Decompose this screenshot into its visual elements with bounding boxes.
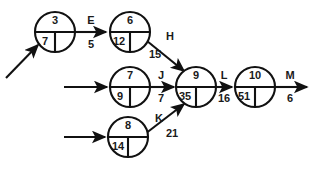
node-1-bottom-left-value: 7 <box>42 35 48 47</box>
node-3[interactable]: 7 9 <box>110 67 150 107</box>
edge-start-to-node-1 <box>6 45 38 78</box>
edge-J-label: J <box>158 69 164 81</box>
node-4[interactable]: 9 35 <box>176 67 216 107</box>
edge-E: E 5 <box>75 14 106 50</box>
edge-M-label: M <box>285 69 294 81</box>
node-1-top-value: 3 <box>52 14 58 26</box>
node-2-bottom-left-value: 12 <box>113 35 125 47</box>
node-5-bottom-left-value: 51 <box>238 90 250 102</box>
node-6-top-value: 8 <box>125 119 131 131</box>
node-5[interactable]: 10 51 <box>235 67 275 107</box>
node-4-bottom-left-value: 35 <box>179 90 191 102</box>
edge-J: J 7 <box>150 69 174 104</box>
network-diagram-svg: E 5 H 15 J 7 K 21 <box>0 0 317 177</box>
node-1[interactable]: 3 7 <box>35 12 75 52</box>
network-diagram-canvas: E 5 H 15 J 7 K 21 <box>0 0 317 177</box>
edge-H: H 15 <box>147 30 184 71</box>
node-3-bottom-left-value: 9 <box>117 90 123 102</box>
edge-K-line <box>145 104 184 134</box>
edge-J-duration: 7 <box>158 92 164 104</box>
node-6[interactable]: 8 14 <box>108 117 148 157</box>
node-2-top-value: 6 <box>127 14 133 26</box>
edge-K-duration: 21 <box>166 127 178 139</box>
edge-M: M 6 <box>275 69 307 104</box>
edge-H-label: H <box>166 30 174 42</box>
edge-L: L 16 <box>216 69 232 104</box>
node-3-top-value: 7 <box>127 69 133 81</box>
edge-start-to-node-1-line <box>6 45 38 78</box>
node-4-top-value: 9 <box>193 69 199 81</box>
edge-L-label: L <box>221 69 228 81</box>
edge-K: K 21 <box>145 104 184 139</box>
edge-E-duration: 5 <box>88 38 94 50</box>
edge-K-label: K <box>155 112 163 124</box>
edge-M-duration: 6 <box>287 92 293 104</box>
edge-E-label: E <box>87 14 94 26</box>
edge-L-duration: 16 <box>218 92 230 104</box>
node-5-top-value: 10 <box>249 69 261 81</box>
node-6-bottom-left-value: 14 <box>112 140 125 152</box>
node-2[interactable]: 6 12 <box>110 12 150 52</box>
edge-H-duration: 15 <box>149 48 161 60</box>
